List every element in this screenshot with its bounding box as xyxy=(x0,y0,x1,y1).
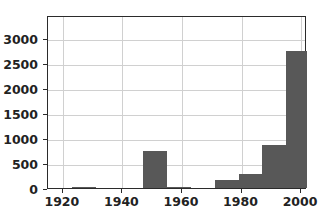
histogram-bar xyxy=(286,51,307,188)
y-tick xyxy=(43,64,47,65)
histogram-bar xyxy=(72,187,96,188)
x-tick-label: 1940 xyxy=(104,194,139,209)
y-tick-label: 0 xyxy=(0,182,38,197)
histogram-bar xyxy=(167,187,191,188)
y-tick-label: 2000 xyxy=(0,81,38,96)
y-tick xyxy=(43,39,47,40)
plot-area xyxy=(47,16,306,189)
y-tick-label: 500 xyxy=(0,156,38,171)
histogram-bar xyxy=(262,145,286,188)
x-tick xyxy=(62,189,63,193)
y-tick-label: 2500 xyxy=(0,56,38,71)
y-tick xyxy=(43,114,47,115)
x-tick xyxy=(300,189,301,193)
y-tick xyxy=(43,189,47,190)
histogram-bar xyxy=(215,180,239,188)
histogram-bar xyxy=(143,151,167,188)
histogram-bar xyxy=(239,174,263,188)
x-tick-label: 2000 xyxy=(283,194,318,209)
y-tick-label: 3000 xyxy=(0,31,38,46)
y-tick-label: 1500 xyxy=(0,106,38,121)
x-tick-label: 1920 xyxy=(44,194,79,209)
y-tick-label: 1000 xyxy=(0,131,38,146)
x-tick xyxy=(241,189,242,193)
y-tick xyxy=(43,164,47,165)
x-tick-label: 1980 xyxy=(223,194,258,209)
x-tick xyxy=(181,189,182,193)
x-tick-label: 1960 xyxy=(164,194,199,209)
x-tick xyxy=(121,189,122,193)
y-tick xyxy=(43,89,47,90)
bars-layer xyxy=(48,17,305,188)
histogram-figure: 19201940196019802000 0500100015002000250… xyxy=(0,0,325,217)
y-tick xyxy=(43,139,47,140)
